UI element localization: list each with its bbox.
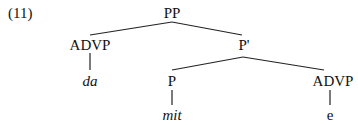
leaf-da: da [83,74,98,89]
node-p: P [168,74,176,89]
node-advp-right: ADVP [313,74,354,89]
leaf-mit: mit [162,108,181,123]
node-p-bar: P' [238,38,249,53]
node-advp-left: ADVP [70,38,111,53]
node-pp: PP [164,6,181,21]
leaf-trace: e [327,108,334,123]
